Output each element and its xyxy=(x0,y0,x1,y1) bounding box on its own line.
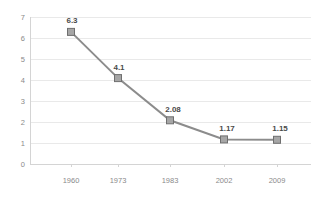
y-tick-label-1: 1 xyxy=(21,139,25,148)
y-tick-label-6: 6 xyxy=(21,34,25,43)
data-point-marker-1973[interactable] xyxy=(115,75,122,82)
x-tick-label-2009: 2009 xyxy=(269,176,286,185)
data-label-1960: 6.3 xyxy=(66,16,78,25)
y-tick-label-0: 0 xyxy=(21,160,25,169)
data-point-marker-2002[interactable] xyxy=(221,136,228,143)
data-label-1983: 2.08 xyxy=(165,105,181,114)
data-point-marker-1960[interactable] xyxy=(68,28,75,35)
y-tick-label-4: 4 xyxy=(21,76,25,85)
x-tick-label-2002: 2002 xyxy=(216,176,233,185)
x-tick-label-1960: 1960 xyxy=(63,176,80,185)
x-tick-label-1983: 1983 xyxy=(162,176,179,185)
x-tick-label-1973: 1973 xyxy=(110,176,127,185)
y-axis-tick-labels: 7 6 5 4 3 2 1 0 xyxy=(21,13,25,169)
line-chart: 7 6 5 4 3 2 1 0 1960 1973 1983 2002 2009… xyxy=(0,0,322,210)
y-tick-label-3: 3 xyxy=(21,97,25,106)
chart-canvas: 7 6 5 4 3 2 1 0 1960 1973 1983 2002 2009… xyxy=(0,0,322,210)
y-tick-label-2: 2 xyxy=(21,118,25,127)
data-labels: 6.3 4.1 2.08 1.17 1.15 xyxy=(66,16,288,133)
data-point-markers xyxy=(68,28,281,143)
y-tick-label-7: 7 xyxy=(21,13,25,22)
data-label-1973: 4.1 xyxy=(113,63,125,72)
data-point-marker-1983[interactable] xyxy=(167,117,174,124)
data-label-2009: 1.15 xyxy=(272,124,288,133)
x-axis-tick-labels: 1960 1973 1983 2002 2009 xyxy=(63,176,286,185)
y-tick-label-5: 5 xyxy=(21,55,25,64)
data-label-2002: 1.17 xyxy=(219,124,235,133)
data-point-marker-2009[interactable] xyxy=(274,136,281,143)
